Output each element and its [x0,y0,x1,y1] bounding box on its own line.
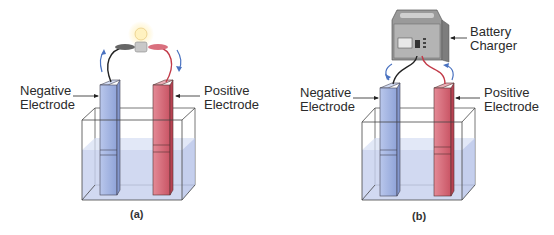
negative-electrode [100,80,120,195]
negative-electrode-label: NegativeElectrode [300,86,355,114]
negative-electrode [380,83,400,196]
negative-electrode-label: NegativeElectrode [20,84,75,112]
battery-charger-icon [392,10,449,62]
red-wire [158,47,172,82]
current-arrow-right-icon [445,65,453,80]
red-clip [148,44,168,50]
black-wire [108,47,125,82]
positive-electrode-label: PositiveElectrode [484,86,539,114]
caption-a: (a) [130,208,143,220]
panel-b-charging-cell: BatteryCharger NegativeElectrode Positiv… [277,0,554,235]
panel-a-discharging-cell: NegativeElectrode PositiveElectrode (a) [0,0,277,235]
caption-b: (b) [412,210,426,222]
positive-electrode [153,80,173,195]
electrolyte-tank [82,108,195,200]
positive-electrode [434,83,454,196]
positive-electrode-label: PositiveElectrode [204,84,259,112]
battery-charger-label: BatteryCharger [470,25,517,53]
black-clip [115,44,135,50]
cell-diagram-a [0,0,277,235]
